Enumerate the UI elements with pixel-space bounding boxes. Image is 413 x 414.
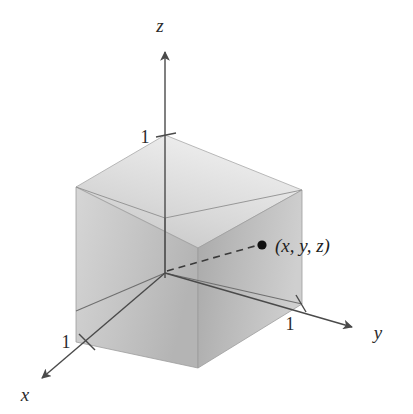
- z-axis-tick-label-1: 1: [141, 127, 150, 147]
- z-axis-label: z: [155, 15, 164, 36]
- point-marker-dot: [257, 240, 266, 249]
- y-axis-tick-label-1: 1: [286, 314, 295, 334]
- point-coordinate-label: (x, y, z): [275, 235, 330, 257]
- cube-group: [76, 135, 302, 368]
- coordinate-system-diagram: z y x 1 1 1 (x, y, z): [0, 0, 413, 414]
- figure-canvas: z y x 1 1 1 (x, y, z): [0, 0, 413, 414]
- x-axis-label: x: [20, 384, 30, 405]
- y-axis-label: y: [372, 322, 383, 343]
- x-axis-tick-label-1: 1: [62, 332, 71, 352]
